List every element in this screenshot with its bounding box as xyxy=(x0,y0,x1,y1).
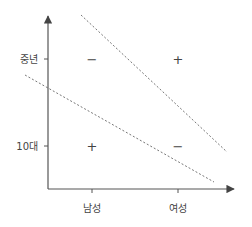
y-label-middle-aged: 중년 xyxy=(20,54,38,65)
x-label-male: 남성 xyxy=(83,203,101,214)
x-label-female: 여성 xyxy=(169,203,187,214)
upper-dashed-line xyxy=(81,15,227,152)
y-label-teens: 10대 xyxy=(16,141,38,152)
quadrant-diagram: 중년 10대 남성 여성 − + + − xyxy=(0,0,252,227)
sign-teens-male: + xyxy=(87,139,98,154)
sign-middle-aged-female: + xyxy=(173,52,184,67)
lower-dashed-line xyxy=(25,75,214,182)
sign-middle-aged-male: − xyxy=(87,52,98,67)
sign-teens-female: − xyxy=(173,139,184,154)
